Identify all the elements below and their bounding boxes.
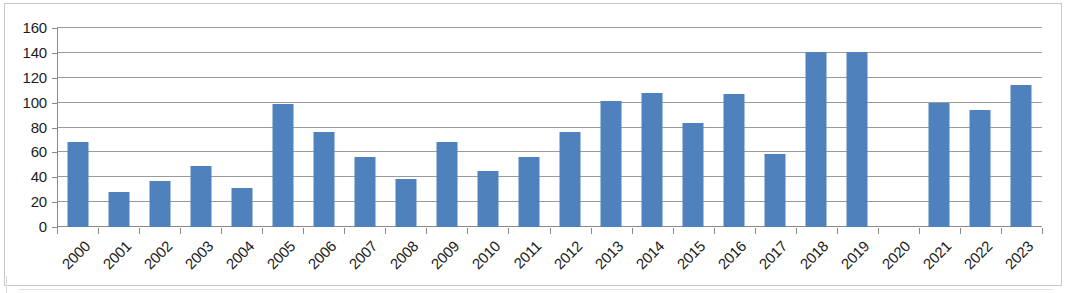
bar-slot bbox=[303, 28, 344, 227]
y-tick-label-0: 0 bbox=[0, 219, 47, 234]
bar bbox=[395, 179, 416, 228]
x-tick-label-2013: 2013 bbox=[581, 238, 626, 283]
bar-slot bbox=[98, 28, 139, 227]
bar bbox=[642, 93, 663, 227]
bar bbox=[272, 104, 293, 227]
bar-slot bbox=[57, 28, 98, 227]
x-tick-label-2020: 2020 bbox=[868, 238, 913, 283]
bar-slot bbox=[673, 28, 714, 227]
bar-slot bbox=[385, 28, 426, 227]
x-tick-label-2016: 2016 bbox=[704, 238, 749, 283]
bar-slot bbox=[960, 28, 1001, 227]
y-tick-label-60: 60 bbox=[0, 144, 47, 159]
y-tick-label-120: 120 bbox=[0, 70, 47, 85]
x-tick-label-2022: 2022 bbox=[950, 238, 995, 283]
y-tick-label-80: 80 bbox=[0, 120, 47, 135]
bar-slot bbox=[139, 28, 180, 227]
bar bbox=[806, 52, 827, 227]
bar bbox=[190, 166, 211, 227]
x-tick-label-2014: 2014 bbox=[622, 238, 667, 283]
y-tick-label-140: 140 bbox=[0, 45, 47, 60]
bar-slot bbox=[591, 28, 632, 227]
x-tick-label-2010: 2010 bbox=[458, 238, 503, 283]
bar bbox=[231, 188, 252, 227]
bar bbox=[847, 52, 868, 227]
x-tick-label-2017: 2017 bbox=[745, 238, 790, 283]
x-tick-label-2012: 2012 bbox=[540, 238, 585, 283]
x-tick-label-2023: 2023 bbox=[992, 238, 1037, 283]
bar-slot bbox=[755, 28, 796, 227]
bar-slot bbox=[919, 28, 960, 227]
bar-slot bbox=[467, 28, 508, 227]
bar bbox=[354, 157, 375, 227]
x-tick-end bbox=[1042, 228, 1043, 234]
bar-slot bbox=[344, 28, 385, 227]
x-axis-tick-labels: 2000200120022003200420052006200720082009… bbox=[57, 234, 1042, 290]
bar-slot bbox=[180, 28, 221, 227]
scan-line-artifact bbox=[18, 289, 1053, 290]
x-tick-label-2021: 2021 bbox=[909, 238, 954, 283]
bar bbox=[149, 181, 170, 227]
bar-slot bbox=[221, 28, 262, 227]
y-tick-label-40: 40 bbox=[0, 169, 47, 184]
x-tick-label-2009: 2009 bbox=[417, 238, 462, 283]
bar-slot bbox=[837, 28, 878, 227]
bar-chart-figure: 020406080100120140160 200020012002200320… bbox=[0, 0, 1070, 293]
bar-slot bbox=[1001, 28, 1042, 227]
x-tick-label-2003: 2003 bbox=[171, 238, 216, 283]
x-tick-label-2018: 2018 bbox=[786, 238, 831, 283]
bar-slot bbox=[550, 28, 591, 227]
bar bbox=[477, 171, 498, 227]
bar-slot bbox=[262, 28, 303, 227]
bars-group bbox=[57, 28, 1042, 227]
x-tick-label-2011: 2011 bbox=[499, 238, 544, 283]
bar bbox=[518, 157, 539, 227]
y-tick-label-100: 100 bbox=[0, 95, 47, 110]
bar bbox=[1011, 85, 1032, 227]
bar bbox=[67, 142, 88, 227]
bar-slot bbox=[508, 28, 549, 227]
scan-edge-artifact bbox=[6, 276, 7, 293]
bar bbox=[765, 154, 786, 227]
y-tick-label-20: 20 bbox=[0, 194, 47, 209]
bar-slot bbox=[426, 28, 467, 227]
x-tick-label-2008: 2008 bbox=[376, 238, 421, 283]
y-axis-tick-labels: 020406080100120140160 bbox=[0, 0, 47, 293]
bar bbox=[970, 110, 991, 227]
x-tick-label-2007: 2007 bbox=[335, 238, 380, 283]
bar-slot bbox=[878, 28, 919, 227]
bar-slot bbox=[632, 28, 673, 227]
bar bbox=[601, 101, 622, 227]
bar bbox=[683, 123, 704, 227]
bar bbox=[929, 103, 950, 227]
y-tick-label-160: 160 bbox=[0, 20, 47, 35]
bar bbox=[313, 132, 334, 227]
bar-slot bbox=[714, 28, 755, 227]
bar bbox=[560, 132, 581, 227]
bar bbox=[108, 192, 129, 227]
x-tick-label-2001: 2001 bbox=[89, 238, 134, 283]
bar bbox=[724, 94, 745, 227]
x-tick-label-2006: 2006 bbox=[294, 238, 339, 283]
bar bbox=[436, 142, 457, 227]
bar-slot bbox=[796, 28, 837, 227]
x-tick-label-2019: 2019 bbox=[827, 238, 872, 283]
x-tick-label-2015: 2015 bbox=[663, 238, 708, 283]
x-tick-label-2005: 2005 bbox=[253, 238, 298, 283]
x-tick-label-2002: 2002 bbox=[130, 238, 175, 283]
x-tick-label-2004: 2004 bbox=[212, 238, 257, 283]
